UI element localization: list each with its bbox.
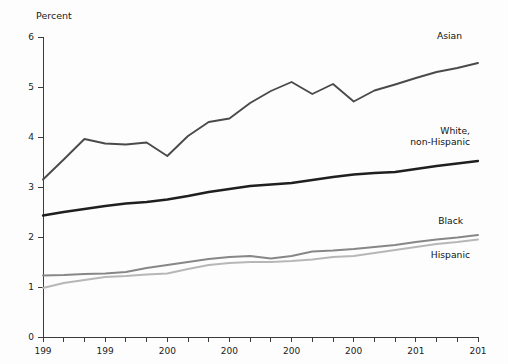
- x-tick-label: 199: [34, 346, 51, 356]
- y-tick-label: 3: [28, 182, 34, 192]
- x-tick-label: 199: [97, 346, 114, 356]
- series-label-asian: Asian: [437, 30, 462, 41]
- x-tick-label: 200: [345, 346, 362, 356]
- x-tick-label: 200: [159, 346, 176, 356]
- x-tick-label: 200: [283, 346, 300, 356]
- y-tick-label: 2: [28, 232, 34, 242]
- series-label-white-non-hispanic-line2: non-Hispanic: [410, 136, 470, 147]
- y-tick-label: 0: [28, 332, 34, 342]
- series-line-asian: [43, 63, 478, 180]
- y-tick-label: 4: [28, 132, 34, 142]
- series-label-black: Black: [438, 215, 464, 226]
- y-axis-title: Percent: [36, 10, 72, 21]
- series-label-white-non-hispanic-line1: White,: [440, 125, 470, 136]
- x-tick-label: 200: [221, 346, 238, 356]
- series-line-hispanic: [43, 240, 478, 289]
- line-chart: Percent0123456199199200200200200201201As…: [0, 0, 508, 364]
- series-label-hispanic: Hispanic: [431, 249, 470, 260]
- x-tick-label: 201: [407, 346, 424, 356]
- y-tick-label: 6: [28, 32, 34, 42]
- x-tick-label: 201: [469, 346, 486, 356]
- series-line-black: [43, 235, 478, 276]
- y-tick-label: 5: [28, 82, 34, 92]
- series-line-white-non-hispanic: [43, 161, 478, 216]
- y-tick-label: 1: [28, 282, 34, 292]
- chart-container: Percent0123456199199200200200200201201As…: [0, 0, 508, 364]
